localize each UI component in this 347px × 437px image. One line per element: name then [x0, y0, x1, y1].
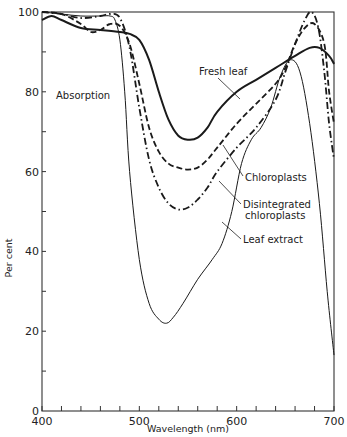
- annotation-absorption: Absorption: [56, 90, 110, 101]
- annotation-disintegrated: Disintegrated: [243, 199, 311, 210]
- x-axis-title: Wavelength (nm): [147, 423, 229, 434]
- annotation-fresh-leaf: Fresh leaf: [199, 66, 248, 77]
- y-tick-label: 40: [25, 245, 39, 258]
- annotation-disintegrated-2: chloroplasts: [245, 210, 305, 221]
- x-tick-label: 600: [226, 415, 247, 428]
- y-tick-label: 80: [25, 86, 39, 99]
- leader-chloroplasts: [223, 145, 243, 176]
- y-axis-title: Per cent: [3, 238, 14, 277]
- series-fresh-leaf: [42, 16, 334, 140]
- series-leaf-extract: [42, 12, 334, 355]
- annotation-leaf-extract: Leaf extract: [243, 234, 303, 245]
- x-tick-label: 700: [324, 415, 345, 428]
- annotation-chloroplasts: Chloroplasts: [245, 172, 307, 183]
- leader-disintegrated: [219, 181, 241, 204]
- series-group: [42, 12, 334, 355]
- y-tick-label: 20: [25, 325, 39, 338]
- y-tick-label: 0: [32, 405, 39, 418]
- leader-fresh-leaf: [218, 78, 240, 99]
- y-tick-label: 60: [25, 166, 39, 179]
- absorption-spectrum-chart: 400500600700020406080100 Per cent Wavele…: [0, 0, 347, 437]
- y-tick-label: 100: [18, 6, 39, 19]
